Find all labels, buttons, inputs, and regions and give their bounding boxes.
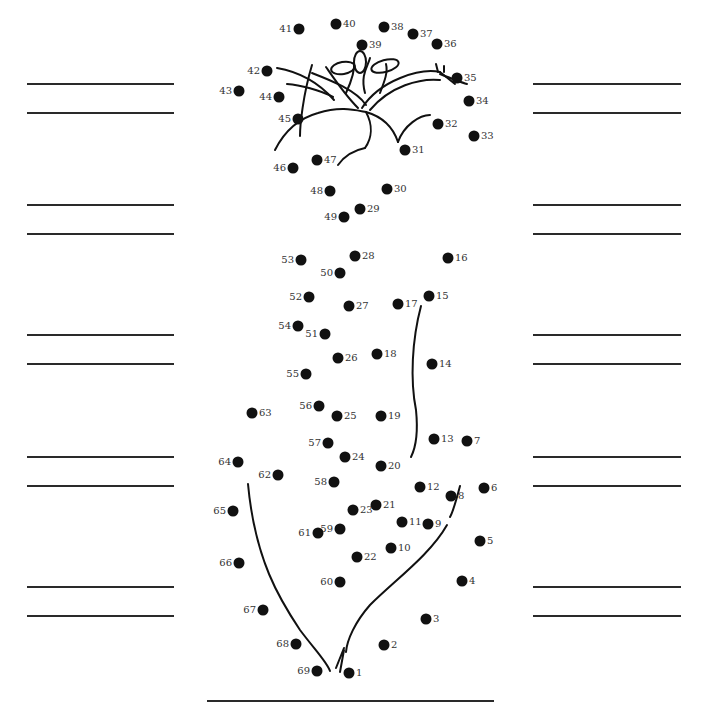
dot-number-label: 65 — [213, 506, 226, 516]
dot-number-label: 30 — [394, 184, 407, 194]
dot-number-label: 13 — [441, 434, 454, 444]
dot-number-label: 51 — [305, 329, 318, 339]
answer-line-left-2 — [27, 112, 174, 114]
dot-2 — [379, 640, 390, 651]
dot-number-label: 68 — [276, 639, 289, 649]
dot-number-label: 25 — [344, 411, 357, 421]
dot-number-label: 4 — [469, 576, 475, 586]
answer-line-right-3 — [533, 204, 681, 206]
dot-number-label: 40 — [343, 19, 356, 29]
dot-8 — [446, 491, 457, 502]
dot-66 — [234, 558, 245, 569]
dot-46 — [288, 163, 299, 174]
dot-number-label: 28 — [362, 251, 375, 261]
answer-line-left-3 — [27, 204, 174, 206]
dot-50 — [335, 268, 346, 279]
dot-33 — [469, 131, 480, 142]
answer-line-left-8 — [27, 485, 174, 487]
left-leaf-line — [248, 484, 330, 671]
dot-number-label: 48 — [310, 186, 323, 196]
dot-29 — [355, 204, 366, 215]
answer-line-right-6 — [533, 363, 681, 365]
dot-number-label: 27 — [356, 301, 369, 311]
dot-65 — [228, 506, 239, 517]
dot-number-label: 53 — [281, 255, 294, 265]
dot-16 — [443, 253, 454, 264]
dot-number-label: 20 — [388, 461, 401, 471]
answer-line-left-9 — [27, 586, 174, 588]
dot-number-label: 56 — [299, 401, 312, 411]
dot-56 — [314, 401, 325, 412]
stem-base-line — [336, 648, 344, 672]
dot-59 — [335, 524, 346, 535]
dot-number-label: 67 — [243, 605, 256, 615]
dot-number-label: 62 — [258, 470, 271, 480]
dot-number-label: 5 — [487, 536, 493, 546]
dot-number-label: 46 — [273, 163, 286, 173]
dot-45 — [293, 114, 304, 125]
dot-25 — [332, 411, 343, 422]
dot-number-label: 8 — [458, 491, 464, 501]
dot-41 — [294, 24, 305, 35]
dot-58 — [329, 477, 340, 488]
dot-number-label: 29 — [367, 204, 380, 214]
dot-number-label: 17 — [405, 299, 418, 309]
dot-number-label: 6 — [491, 483, 497, 493]
dot-number-label: 69 — [297, 666, 310, 676]
dot-number-label: 18 — [384, 349, 397, 359]
dot-35 — [452, 73, 463, 84]
dot-number-label: 61 — [298, 528, 311, 538]
dot-47 — [312, 155, 323, 166]
dot-18 — [372, 349, 383, 360]
dot-27 — [344, 301, 355, 312]
dot-20 — [376, 461, 387, 472]
dot-24 — [340, 452, 351, 463]
dot-number-label: 41 — [279, 24, 292, 34]
dot-number-label: 24 — [352, 452, 365, 462]
answer-line-right-9 — [533, 586, 681, 588]
answer-line-right-2 — [533, 112, 681, 114]
answer-line-right-8 — [533, 485, 681, 487]
dot-32 — [433, 119, 444, 130]
dot-number-label: 54 — [278, 321, 291, 331]
dot-53 — [296, 255, 307, 266]
dot-number-label: 36 — [444, 39, 457, 49]
dot-number-label: 35 — [464, 73, 477, 83]
dot-number-label: 26 — [345, 353, 358, 363]
dot-number-label: 34 — [476, 96, 489, 106]
dot-12 — [415, 482, 426, 493]
dot-38 — [379, 22, 390, 33]
dot-number-label: 58 — [314, 477, 327, 487]
dot-number-label: 23 — [360, 505, 373, 515]
dot-69 — [312, 666, 323, 677]
answer-line-left-5 — [27, 334, 174, 336]
stem-line — [411, 306, 421, 457]
dot-9 — [423, 519, 434, 530]
dot-62 — [273, 470, 284, 481]
dot-15 — [424, 291, 435, 302]
dot-10 — [386, 543, 397, 554]
dot-68 — [291, 639, 302, 650]
answer-line-right-7 — [533, 456, 681, 458]
dot-number-label: 31 — [412, 145, 425, 155]
bottom-answer-line — [207, 700, 494, 702]
dot-31 — [400, 145, 411, 156]
dot-number-label: 57 — [308, 438, 321, 448]
dot-57 — [323, 438, 334, 449]
answer-line-left-6 — [27, 363, 174, 365]
dot-number-label: 43 — [219, 86, 232, 96]
dot-52 — [304, 292, 315, 303]
dot-number-label: 44 — [259, 92, 272, 102]
dot-63 — [247, 408, 258, 419]
dot-number-label: 7 — [474, 436, 480, 446]
dot-number-label: 19 — [388, 411, 401, 421]
dot-number-label: 47 — [324, 155, 337, 165]
answer-line-left-4 — [27, 233, 174, 235]
dot-number-label: 66 — [219, 558, 232, 568]
answer-line-left-1 — [27, 83, 174, 85]
right-leaf-lower-line — [346, 525, 447, 652]
dot-60 — [335, 577, 346, 588]
dot-5 — [475, 536, 486, 547]
dot-number-label: 49 — [324, 212, 337, 222]
dot-44 — [274, 92, 285, 103]
